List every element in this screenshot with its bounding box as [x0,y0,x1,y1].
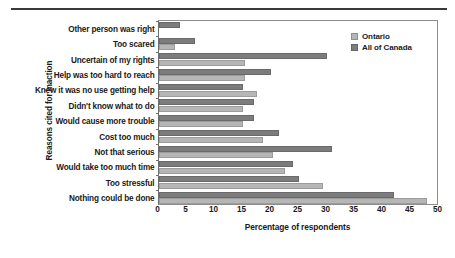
bar-all-of-canada [159,161,293,167]
legend-item-all-of-canada: All of Canada [351,43,447,52]
bar-row: Didn't know what to do [159,98,437,113]
category-label: Knew it was no use getting help [35,86,155,95]
bar-all-of-canada [159,192,394,198]
category-label: Would cause more trouble [55,117,154,126]
bar-row: Nothing could be done [159,190,437,205]
x-axis-tick-label: 40 [377,205,386,214]
bar-ontario [159,137,263,143]
category-label: Uncertain of my rights [71,55,155,64]
x-axis-tick-label: 50 [433,205,442,214]
bar-ontario [159,91,257,97]
y-axis-title: Reasons cited for inaction [45,16,54,206]
bar-all-of-canada [159,53,327,59]
top-rule-divider [11,8,447,10]
x-axis-tick-label: 10 [209,205,218,214]
chart-legend: Ontario All of Canada [351,32,447,54]
x-axis-tick-label: 35 [349,205,358,214]
bar-all-of-canada [159,38,196,44]
bar-ontario [159,75,246,81]
bar-ontario [159,121,243,127]
bar-all-of-canada [159,146,332,152]
category-label: Would take too much time [56,163,154,172]
bar-ontario [159,44,176,50]
legend-swatch-icon-ontario [351,33,358,40]
category-label: Nothing could be done [69,194,155,203]
legend-swatch-icon-all-of-canada [351,44,358,51]
bar-all-of-canada [159,115,254,121]
x-axis-tick-label: 25 [293,205,302,214]
legend-item-ontario: Ontario [351,32,447,41]
category-label: Help was too hard to reach [54,70,155,79]
bar-all-of-canada [159,130,280,136]
x-axis-ticks: 05101520253035404550 [158,205,438,219]
x-axis-tick-label: 0 [155,205,160,214]
bar-ontario [159,168,285,174]
bar-row: Not that serious [159,144,437,159]
x-axis-tick-label: 45 [405,205,414,214]
bar-row: Too stressful [159,175,437,190]
category-label: Other person was right [68,24,154,33]
bar-ontario [159,183,324,189]
legend-label-all-of-canada: All of Canada [362,43,412,52]
bar-row: Would cause more trouble [159,113,437,128]
category-label: Cost too much [99,132,154,141]
category-label: Not that serious [95,147,155,156]
x-axis-tick-label: 5 [183,205,188,214]
bar-all-of-canada [159,22,180,28]
bar-all-of-canada [159,176,300,182]
bar-row: Would take too much time [159,160,437,175]
bar-ontario [159,198,427,204]
x-axis-title: Percentage of respondents [158,222,438,232]
bar-all-of-canada [159,84,243,90]
x-axis-tick-label: 20 [265,205,274,214]
bar-row: Uncertain of my rights [159,52,437,67]
bar-chart-figure: Reasons cited for inaction Other person … [0,0,455,258]
bar-all-of-canada [159,69,271,75]
category-label: Too scared [113,40,155,49]
bar-row: Cost too much [159,129,437,144]
bar-row: Help was too hard to reach [159,67,437,82]
bar-all-of-canada [159,99,254,105]
bar-ontario [159,152,273,158]
x-axis-tick-label: 15 [237,205,246,214]
bar-ontario [159,60,246,66]
bar-ontario [159,106,243,112]
category-label: Too stressful [106,178,155,187]
x-axis-tick-label: 30 [321,205,330,214]
category-label: Didn't know what to do [69,101,155,110]
legend-label-ontario: Ontario [362,32,390,41]
bar-row: Knew it was no use getting help [159,83,437,98]
